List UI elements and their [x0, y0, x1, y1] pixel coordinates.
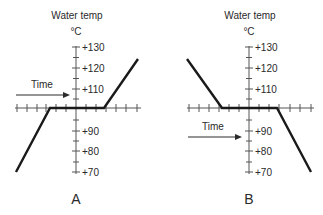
tick-label-b-90: +90	[255, 126, 272, 137]
tick-label-a-130: +130	[82, 42, 105, 53]
tick-label-b-70: +70	[255, 167, 272, 178]
time-arrow-a	[16, 92, 70, 98]
tick-label-b-110: +110	[255, 84, 277, 95]
panel-b: Water temp °C +130 +120 +110 +90 +80 +70	[187, 10, 314, 207]
arrowhead-icon	[63, 92, 70, 98]
tick-label-a-120: +120	[82, 63, 105, 74]
tick-label-a-110: +110	[82, 84, 104, 95]
time-arrow-b	[188, 134, 242, 140]
axis-title-a: Water temp	[51, 10, 103, 21]
panel-label-b: B	[244, 191, 253, 207]
tick-label-a-70: +70	[82, 167, 99, 178]
temperature-curve-a	[16, 59, 138, 172]
arrowhead-icon	[235, 134, 242, 140]
time-label-a: Time	[31, 79, 53, 90]
panel-a: Water temp °C +130 +120 +110 +90 +80 +70	[15, 10, 141, 207]
tick-label-a-90: +90	[82, 126, 99, 137]
tick-label-b-80: +80	[255, 146, 272, 157]
tick-label-b-120: +120	[255, 63, 278, 74]
diagram-canvas: Water temp °C +130 +120 +110 +90 +80 +70	[0, 0, 323, 215]
time-label-b: Time	[202, 121, 224, 132]
unit-label-a: °C	[70, 26, 81, 37]
unit-label-b: °C	[243, 26, 254, 37]
tick-label-b-130: +130	[255, 42, 278, 53]
axis-title-b: Water temp	[224, 10, 276, 21]
tick-label-a-80: +80	[82, 146, 99, 157]
panel-label-a: A	[71, 191, 81, 207]
